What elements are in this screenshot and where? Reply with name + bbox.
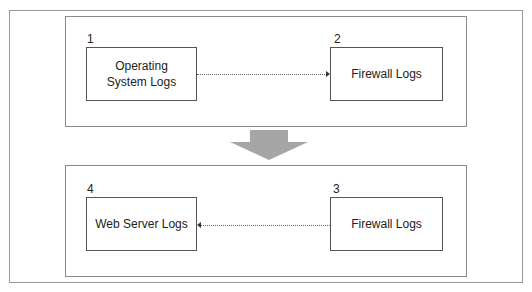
edge-3-to-4 bbox=[201, 225, 330, 226]
node-1-number: 1 bbox=[87, 32, 94, 46]
node-label: Web Server Logs bbox=[95, 216, 188, 232]
node-label: Firewall Logs bbox=[351, 66, 422, 82]
node-3-number: 3 bbox=[333, 182, 340, 196]
down-arrow-icon bbox=[230, 130, 308, 160]
node-2-number: 2 bbox=[334, 32, 341, 46]
node-web-server-logs: Web Server Logs bbox=[86, 197, 197, 251]
node-firewall-logs-bottom: Firewall Logs bbox=[330, 197, 443, 251]
node-operating-system-logs: Operating System Logs bbox=[86, 47, 197, 101]
node-4-number: 4 bbox=[87, 182, 94, 196]
arrowhead-right-icon bbox=[326, 71, 330, 77]
edge-1-to-2 bbox=[197, 74, 327, 75]
arrowhead-left-icon bbox=[197, 222, 201, 228]
node-label: Firewall Logs bbox=[351, 216, 422, 232]
node-firewall-logs-top: Firewall Logs bbox=[330, 47, 443, 101]
node-label: Operating System Logs bbox=[97, 58, 186, 90]
